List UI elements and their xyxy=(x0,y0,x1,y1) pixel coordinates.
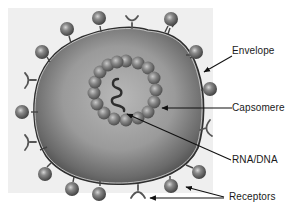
label-capsomere: Capsomere xyxy=(232,103,285,113)
label-receptors: Receptors xyxy=(229,192,275,202)
label-rna-dna: RNA/DNA xyxy=(232,155,278,165)
virus-diagram: Envelope Capsomere RNA/DNA Receptors xyxy=(0,0,299,216)
label-envelope: Envelope xyxy=(232,46,275,56)
